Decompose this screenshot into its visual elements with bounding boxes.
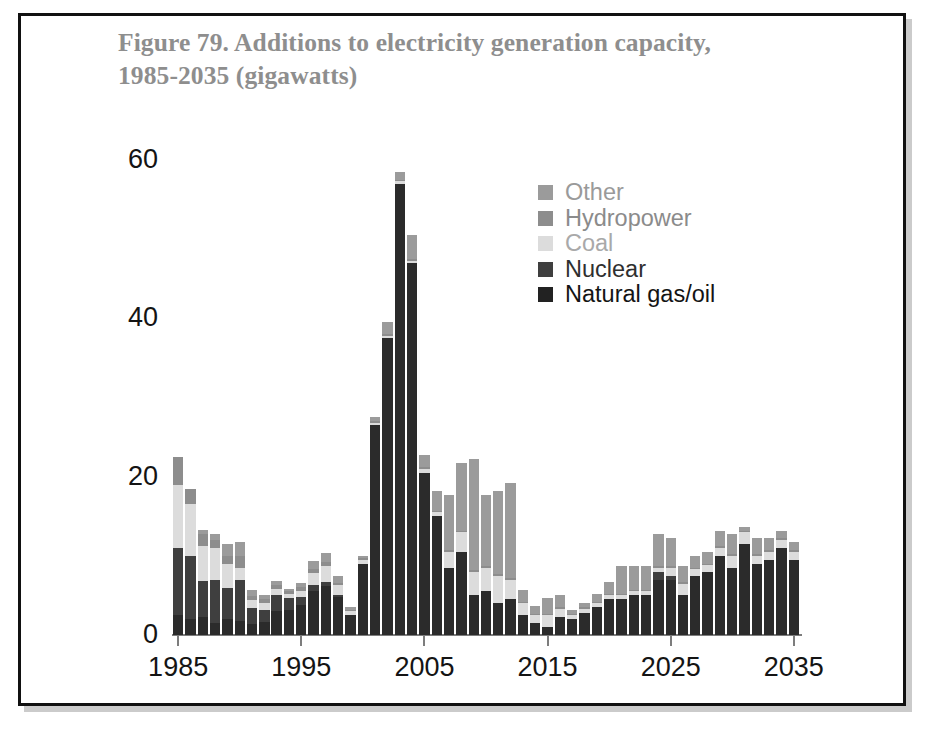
bar-segment <box>198 581 208 617</box>
bar-segment <box>579 603 589 607</box>
bar-segment <box>173 548 183 615</box>
bar-segment <box>518 603 528 615</box>
bar-segment <box>173 615 183 635</box>
bar-segment <box>382 334 392 336</box>
bar-segment <box>407 235 417 259</box>
bar-segment <box>505 578 515 580</box>
bar-segment <box>407 263 417 635</box>
bar-segment <box>395 172 405 180</box>
bar-segment <box>395 184 405 635</box>
bar-segment <box>592 607 602 635</box>
bar-segment <box>629 591 639 595</box>
bar-segment <box>641 566 651 590</box>
x-axis-tick <box>547 635 549 646</box>
bar-segment <box>210 623 220 635</box>
bar-segment <box>727 556 737 568</box>
bar-segment <box>321 586 331 635</box>
bar-segment <box>764 552 774 560</box>
bar-segment <box>666 566 676 568</box>
bar-segment <box>333 595 343 597</box>
bar-segment <box>259 610 269 622</box>
bar-segment <box>530 606 540 614</box>
bar-segment <box>690 556 700 568</box>
legend-item-other: Other <box>538 180 798 206</box>
bar-segment <box>222 544 232 556</box>
y-axis-tick-label: 20 <box>104 463 158 490</box>
bar-segment <box>235 556 245 568</box>
bar-segment <box>395 181 405 183</box>
bar-segment <box>284 598 294 610</box>
bar-segment <box>382 338 392 635</box>
bar-segment <box>678 582 688 584</box>
bar-segment <box>567 615 577 619</box>
legend-item-label: Nuclear <box>565 257 646 282</box>
bar-segment <box>690 568 700 570</box>
y-axis-tick-label: 0 <box>104 621 158 648</box>
bar-segment <box>321 553 331 563</box>
bar-segment <box>481 568 491 592</box>
bar-segment <box>592 594 602 602</box>
bar-segment <box>727 568 737 635</box>
bar-segment <box>579 613 589 635</box>
bar-segment <box>432 512 442 516</box>
bar-segment <box>296 591 306 597</box>
bar-segment <box>653 566 663 568</box>
bar-segment <box>271 595 281 611</box>
y-axis-tick-label: 40 <box>104 304 158 331</box>
x-axis-tick-label: 2015 <box>488 652 608 683</box>
x-axis-tick <box>177 635 179 646</box>
bar-segment <box>456 463 466 530</box>
bar-segment <box>456 531 466 533</box>
bar-segment <box>641 590 651 592</box>
bar-segment <box>715 548 725 556</box>
bar-segment <box>271 611 281 635</box>
bar-segment <box>210 534 220 540</box>
bar-segment <box>752 556 762 564</box>
bar-segment <box>210 540 220 548</box>
bar-segment <box>444 550 454 552</box>
bar-segment <box>370 425 380 635</box>
bar-segment <box>579 607 589 609</box>
x-axis-tick <box>300 635 302 646</box>
x-axis-tick <box>423 635 425 646</box>
bar-segment <box>333 576 343 582</box>
bar-segment <box>789 550 799 552</box>
bar-segment <box>259 603 269 611</box>
bar-segment <box>395 180 405 182</box>
bar-segment <box>776 538 786 540</box>
figure-title: Figure 79. Additions to electricity gene… <box>118 26 818 92</box>
bar-segment <box>247 624 257 635</box>
bar-segment <box>271 589 281 595</box>
legend-swatch-icon <box>538 287 553 302</box>
bar-segment <box>739 531 749 533</box>
bar-segment <box>333 597 343 635</box>
bar-segment <box>764 538 774 550</box>
bar-segment <box>739 527 749 531</box>
bar-segment <box>629 595 639 635</box>
bar-segment <box>579 609 589 613</box>
bar-segment <box>235 542 245 556</box>
bar-segment <box>370 417 380 421</box>
legend-item-label: Natural gas/oil <box>565 282 715 307</box>
bar-segment <box>616 594 626 596</box>
bar-segment <box>715 546 725 548</box>
bar-segment <box>456 552 466 635</box>
bar-segment <box>555 617 565 635</box>
legend-swatch-icon <box>538 236 553 251</box>
bar-segment <box>776 540 786 548</box>
bar-segment <box>666 538 676 566</box>
bar-segment <box>370 421 380 423</box>
bar-segment <box>308 569 318 573</box>
bar-segment <box>284 594 294 598</box>
bar-segment <box>727 534 737 554</box>
bar-segment <box>690 576 700 635</box>
bar-segment <box>481 591 491 635</box>
bar-segment <box>308 585 318 591</box>
bar-segment <box>432 511 442 513</box>
bar-segment <box>518 590 528 602</box>
x-axis-tick-label: 2025 <box>611 652 731 683</box>
legend-item-hydropower: Hydropower <box>538 206 798 232</box>
bar-segment <box>542 627 552 635</box>
bar-segment <box>469 595 479 635</box>
bar-segment <box>505 599 515 635</box>
